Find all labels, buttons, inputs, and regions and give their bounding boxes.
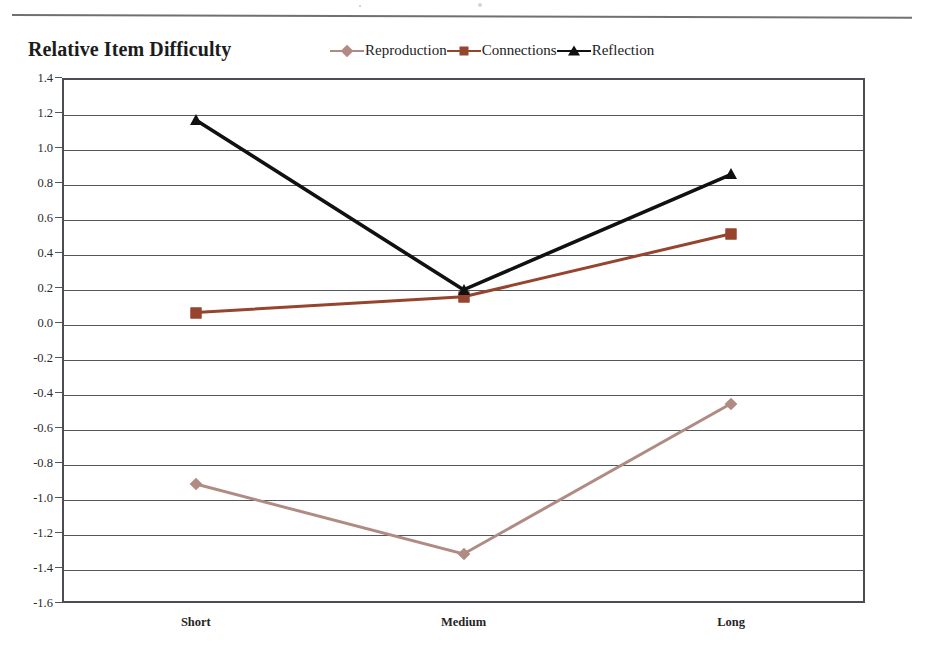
y-tick-mark — [55, 427, 62, 428]
y-tick-mark — [55, 112, 62, 113]
x-tick-label-medium: Medium — [441, 615, 486, 630]
y-tick-mark — [55, 217, 62, 218]
gridline — [64, 255, 863, 256]
y-tick-mark — [55, 77, 62, 78]
legend-marker — [574, 51, 586, 61]
gridline — [64, 185, 863, 186]
legend-swatch-connections — [447, 44, 481, 58]
y-tick-mark — [55, 532, 62, 533]
chart-figure: Relative Item Difficulty ReproductionCon… — [0, 0, 928, 666]
y-axis: 1.41.21.00.80.60.40.20.0-0.2-0.4-0.6-0.8… — [0, 0, 62, 666]
legend-label: Reflection — [592, 43, 654, 58]
y-tick-mark — [55, 462, 62, 463]
x-tick-label-long: Long — [717, 615, 745, 630]
gridline — [64, 290, 863, 291]
y-tick-label: 0.8 — [37, 176, 53, 191]
y-tick-label: -1.2 — [33, 526, 53, 541]
y-tick-mark — [55, 322, 62, 323]
gridline — [64, 465, 863, 466]
gridline — [64, 500, 863, 501]
triangle-icon — [568, 45, 580, 55]
square-icon — [459, 46, 468, 55]
legend-entry-reproduction[interactable]: Reproduction — [330, 43, 447, 58]
legend-entry-reflection[interactable]: Reflection — [557, 43, 654, 58]
y-tick-mark — [55, 252, 62, 253]
y-tick-label: 1.0 — [37, 141, 53, 156]
y-tick-label: -0.2 — [33, 351, 53, 366]
y-tick-label: 1.2 — [37, 106, 53, 121]
y-tick-label: 0.6 — [37, 211, 53, 226]
y-tick-mark — [55, 147, 62, 148]
gridline — [64, 360, 863, 361]
y-tick-label: -1.6 — [33, 596, 53, 611]
legend-label: Reproduction — [365, 43, 447, 58]
gridline — [64, 395, 863, 396]
legend-swatch-reflection — [557, 44, 591, 58]
y-tick-label: 0.4 — [37, 246, 53, 261]
diamond-icon — [341, 44, 354, 57]
y-tick-mark — [55, 602, 62, 603]
legend-label: Connections — [482, 43, 557, 58]
y-tick-label: -0.8 — [33, 456, 53, 471]
x-tick-label-short: Short — [181, 615, 211, 630]
y-tick-label: -0.4 — [33, 386, 53, 401]
legend-swatch-reproduction — [330, 44, 364, 58]
y-tick-mark — [55, 287, 62, 288]
legend-entry-connections[interactable]: Connections — [447, 43, 557, 58]
y-tick-label: 1.4 — [37, 71, 53, 86]
gridline — [64, 570, 863, 571]
gridline — [64, 325, 863, 326]
gridline — [64, 430, 863, 431]
chart-legend: ReproductionConnectionsReflection — [330, 43, 654, 58]
legend-marker — [347, 51, 356, 60]
legend-marker — [464, 51, 473, 60]
y-tick-label: -1.0 — [33, 491, 53, 506]
y-tick-label: -1.4 — [33, 561, 53, 576]
gridline — [64, 535, 863, 536]
y-tick-mark — [55, 182, 62, 183]
gridline — [64, 115, 863, 116]
y-tick-label: 0.2 — [37, 281, 53, 296]
plot-area — [62, 78, 865, 603]
y-tick-mark — [55, 567, 62, 568]
y-tick-mark — [55, 357, 62, 358]
y-tick-label: 0.0 — [37, 316, 53, 331]
y-tick-mark — [55, 497, 62, 498]
gridline — [64, 150, 863, 151]
y-tick-label: -0.6 — [33, 421, 53, 436]
gridline — [64, 220, 863, 221]
y-tick-mark — [55, 392, 62, 393]
